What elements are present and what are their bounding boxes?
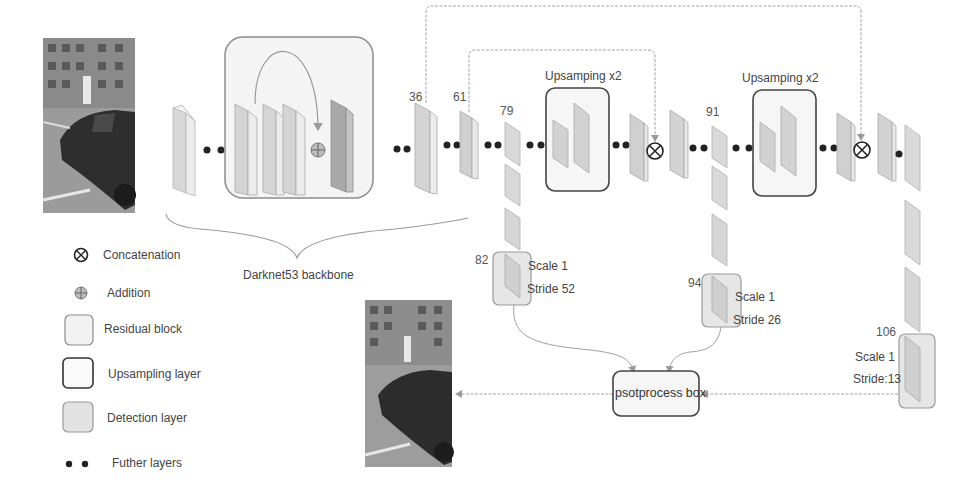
layer-36 (415, 103, 437, 194)
residual-block-icon (65, 315, 93, 345)
layer-block (173, 105, 195, 196)
upsampling-block-2 (753, 90, 816, 196)
detection-82-scale: Scale 1 (528, 259, 568, 273)
concatenation-node-1 (647, 143, 663, 159)
detection-94-stride: Stride 26 (733, 313, 781, 327)
layer-number-94: 94 (688, 276, 701, 290)
layer-number-61: 61 (453, 90, 466, 104)
addition-icon (75, 287, 87, 299)
detection-layer-82 (493, 252, 531, 305)
layer-79-column (505, 122, 520, 250)
legend-label-detection-layer: Detection layer (107, 411, 187, 425)
output-image (365, 300, 454, 467)
upsampling-label-2: Upsamping x2 (742, 71, 819, 85)
layer-number-106: 106 (876, 325, 896, 339)
legend-label-further-layers: Futher layers (112, 456, 182, 470)
legend-label-upsampling-layer: Upsampling layer (108, 367, 201, 381)
layer-block (630, 114, 644, 181)
layer-106-column (905, 125, 920, 332)
layer-61 (460, 111, 478, 179)
layer-number-91: 91 (706, 105, 719, 119)
legend-label-addition: Addition (107, 286, 150, 300)
concatenation-icon (75, 249, 88, 262)
concatenation-node-2 (854, 142, 870, 158)
legend-label-residual-block: Residual block (104, 322, 182, 336)
yolov3-diagram: 36 61 79 91 82 94 106 Upsamping x2 Upsam… (0, 0, 975, 488)
layer-91-column (712, 126, 727, 266)
arrow-82-to-postprocess (514, 305, 634, 372)
input-image (43, 38, 136, 213)
detection-94-scale: Scale 1 (735, 290, 775, 304)
detection-layer-106 (899, 334, 935, 408)
backbone-brace (166, 214, 468, 258)
legend-icons (63, 249, 93, 468)
layer-number-82: 82 (475, 253, 488, 267)
legend-label-concatenation: Concatenation (103, 248, 180, 262)
further-layers-icon (66, 461, 88, 467)
layer-number-36: 36 (409, 90, 422, 104)
residual-block (225, 37, 373, 198)
upsampling-label-1: Upsamping x2 (545, 69, 622, 83)
detection-layer-icon (63, 402, 93, 432)
detection-106-scale: Scale 1 (855, 350, 895, 364)
upsampling-block-1 (546, 88, 609, 191)
postprocess-label: psotprocess box (615, 386, 706, 400)
arrow-94-to-postprocess (669, 327, 721, 372)
detection-106-stride: Stride:13 (853, 372, 901, 386)
upsampling-layer-icon (63, 358, 93, 388)
backbone-label: Darknet53 backbone (243, 268, 354, 282)
further-layers-dots (204, 147, 225, 154)
detection-82-stride: Stride 52 (527, 282, 575, 296)
layer-number-79: 79 (500, 104, 513, 118)
